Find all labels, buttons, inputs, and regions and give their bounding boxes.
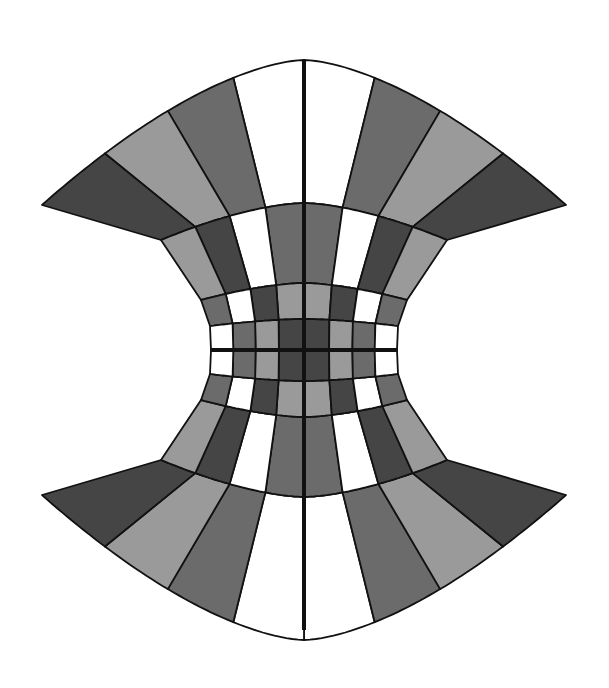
- conformal-grid-figure: [0, 0, 609, 688]
- grid-cell-dark: [304, 350, 329, 381]
- grid-cell-mid: [233, 322, 256, 351]
- grid-cell-light: [304, 380, 332, 417]
- grid-cell-light: [276, 380, 304, 417]
- grid-cell-light: [255, 320, 279, 350]
- grid-cell-white: [210, 350, 233, 377]
- grid-cell-dark: [304, 319, 329, 350]
- grid-cell-light: [304, 283, 332, 320]
- grid-cell-dark: [279, 350, 304, 381]
- grid-cell-white: [210, 324, 233, 351]
- grid-cell-mid: [352, 322, 375, 351]
- diagram-canvas: [0, 0, 609, 688]
- grid-cell-white: [375, 350, 398, 377]
- grid-cell-light: [276, 283, 304, 320]
- grid-cell-white: [375, 324, 398, 351]
- grid-cell-dark: [279, 319, 304, 350]
- grid-cell-mid: [233, 350, 256, 379]
- grid-cell-light: [329, 350, 353, 380]
- grid-cell-light: [329, 320, 353, 350]
- grid-cell-light: [255, 350, 279, 380]
- grid-cell-mid: [352, 350, 375, 379]
